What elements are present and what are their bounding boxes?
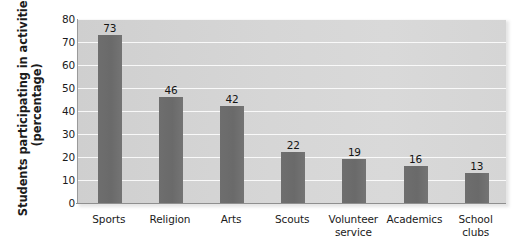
x-tick-label-line: School: [437, 213, 515, 226]
bar: [342, 159, 366, 203]
y-tick-label: 30: [52, 128, 75, 140]
y-tick-label: 20: [52, 151, 75, 163]
bar: [465, 173, 489, 203]
y-tick-label: 40: [52, 105, 75, 117]
x-tick-label: Schoolclubs: [437, 213, 515, 238]
bar: [98, 35, 122, 203]
bar: [220, 106, 244, 203]
x-axis-line: [76, 203, 506, 204]
y-axis-title-line-1: Students participating in activities: [16, 0, 30, 216]
x-tick-label-line: clubs: [437, 226, 515, 239]
bar-value-label: 46: [151, 84, 191, 96]
y-axis-title-line-2: (percentage): [30, 0, 44, 216]
y-tick-label: 50: [52, 82, 75, 94]
bar-value-label: 19: [334, 146, 374, 158]
bar-value-label: 73: [90, 22, 130, 34]
y-tick-label: 80: [52, 13, 75, 25]
plot-area: 73464222191613: [77, 19, 506, 203]
x-tick-label-line: service: [314, 226, 392, 239]
bar-chart-figure: Students participating in activities (pe…: [0, 0, 522, 247]
y-axis-title-text: Students participating in activities (pe…: [16, 0, 44, 216]
bar-value-label: 13: [457, 160, 497, 172]
x-axis-tick-labels: SportsReligionArtsScoutsVolunteerservice…: [0, 207, 522, 247]
y-tick-label: 60: [52, 59, 75, 71]
bar-value-label: 22: [273, 139, 313, 151]
y-tick-label: 10: [52, 174, 75, 186]
bar: [404, 166, 428, 203]
bar-series: 73464222191613: [78, 19, 506, 203]
bar-value-label: 16: [396, 153, 436, 165]
y-axis-title: Students participating in activities (pe…: [4, 0, 56, 210]
y-tick-label: 70: [52, 36, 75, 48]
bar: [281, 152, 305, 203]
bar-value-label: 42: [212, 93, 252, 105]
bar: [159, 97, 183, 203]
